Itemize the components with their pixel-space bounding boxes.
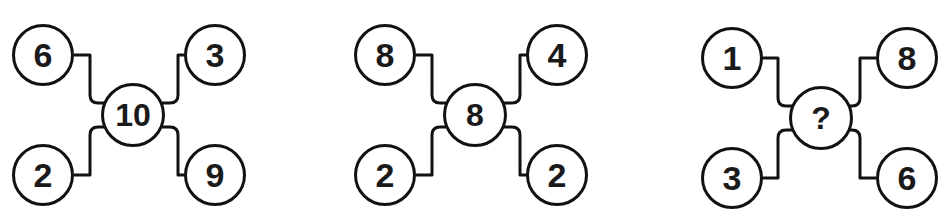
circle-bottom-right: 6 — [876, 147, 938, 209]
circle-center: 8 — [443, 83, 507, 147]
circle-bottom-left: 3 — [701, 147, 763, 209]
circle-center: 10 — [101, 83, 165, 147]
circle-bottom-right: 2 — [526, 144, 588, 206]
circle-bottom-right: 9 — [184, 144, 246, 206]
circle-top-right: 8 — [876, 27, 938, 89]
circle-top-right: 4 — [526, 24, 588, 86]
circle-top-left: 1 — [701, 27, 763, 89]
puzzle-figure-1: 6 3 10 2 9 — [12, 0, 312, 222]
circle-bottom-left: 2 — [354, 144, 416, 206]
circle-top-right: 3 — [184, 24, 246, 86]
puzzle-figure-3: 1 8 ? 3 6 — [700, 0, 939, 222]
circle-center-unknown: ? — [789, 86, 853, 150]
circle-top-left: 6 — [12, 24, 74, 86]
circle-top-left: 8 — [354, 24, 416, 86]
circle-bottom-left: 2 — [12, 144, 74, 206]
puzzle-figure-2: 8 4 8 2 2 — [354, 0, 654, 222]
